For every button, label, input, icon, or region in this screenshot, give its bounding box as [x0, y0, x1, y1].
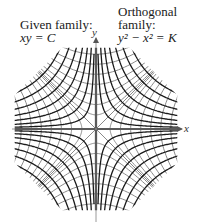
- curve: [0, 19, 31, 224]
- orthogonal-family-equation: y² − x² = K: [118, 31, 177, 44]
- y-axis-label: y: [92, 26, 97, 38]
- curve: [0, 153, 73, 224]
- curve: [161, 19, 202, 224]
- orthogonal-family-label: Orthogonal family: y² − x² = K: [118, 5, 177, 44]
- curve: [0, 1, 67, 98]
- x-axis-label: x: [184, 122, 189, 134]
- given-family-label: Given family: xy = C: [20, 18, 93, 44]
- curve: [0, 204, 196, 224]
- given-family-equation: xy = C: [20, 31, 93, 44]
